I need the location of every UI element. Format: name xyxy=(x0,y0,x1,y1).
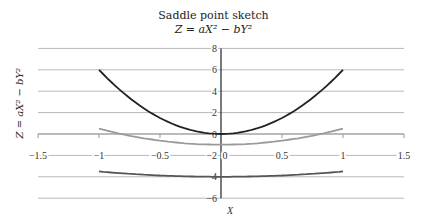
x-tick-label: 1 xyxy=(341,150,346,161)
x-tick-label: −1.5 xyxy=(29,150,47,161)
y-tick-label: 2 xyxy=(212,107,217,118)
y-tick-label: −2 xyxy=(206,150,217,161)
x-axis-label: X xyxy=(226,205,234,216)
x-tick-label: −0.5 xyxy=(151,150,169,161)
x-tick-label: −1 xyxy=(94,150,105,161)
x-tick-label: 0 xyxy=(223,150,228,161)
y-tick-label: 8 xyxy=(212,43,217,54)
plot-area: 86420−2−4−6−1.5−1−0.500.511.5X xyxy=(0,0,427,221)
y-tick-label: 6 xyxy=(212,64,217,75)
y-tick-label: 4 xyxy=(212,86,217,97)
x-tick-label: 0.5 xyxy=(276,150,289,161)
x-tick-label: 1.5 xyxy=(398,150,411,161)
y-tick-label: −6 xyxy=(206,193,217,204)
